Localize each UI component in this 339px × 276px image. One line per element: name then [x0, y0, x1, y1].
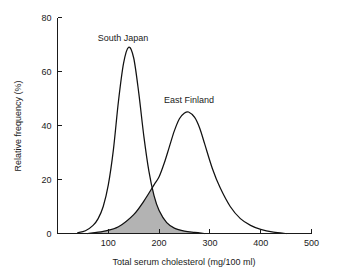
y-tick-label: 0 — [46, 229, 51, 239]
series-label-east-finland: East Finland — [164, 95, 214, 105]
curve-east-finland — [88, 112, 286, 234]
y-axis-ticks — [58, 18, 63, 180]
series-label-south-japan: South Japan — [98, 33, 149, 43]
y-tick-label: 60 — [41, 67, 51, 77]
x-axis-title: Total serum cholesterol (mg/100 ml) — [112, 257, 255, 267]
overlap-shaded-region — [88, 188, 205, 233]
x-axis-tick-labels: 100200300400500 — [101, 238, 319, 248]
axis-lines — [58, 18, 312, 234]
y-tick-label: 80 — [41, 13, 51, 23]
chart-canvas: 100200300400500 020406080 Total serum ch… — [0, 0, 339, 276]
x-tick-label: 300 — [202, 238, 217, 248]
y-tick-label: 40 — [41, 121, 51, 131]
x-tick-label: 200 — [152, 238, 167, 248]
cholesterol-distribution-figure: 100200300400500 020406080 Total serum ch… — [0, 0, 339, 276]
x-tick-label: 100 — [101, 238, 116, 248]
y-tick-label: 20 — [41, 175, 51, 185]
x-tick-label: 500 — [304, 238, 319, 248]
y-axis-title: Relative frequency (%) — [13, 80, 23, 171]
x-tick-label: 400 — [253, 238, 268, 248]
y-axis-tick-labels: 020406080 — [41, 13, 51, 239]
